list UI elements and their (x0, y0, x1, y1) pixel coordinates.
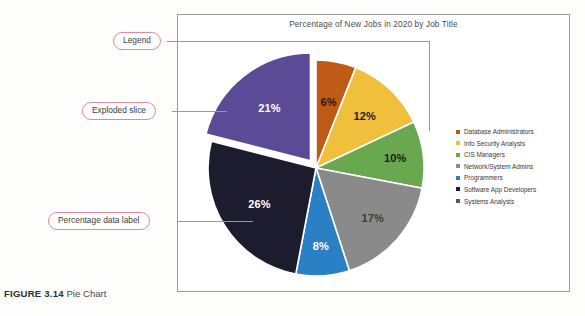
pie-data-label: 17% (361, 212, 384, 224)
legend-item: Software App Developers (456, 185, 568, 194)
legend-item-label: Programmers (464, 173, 503, 182)
callout-percentage-data-label: Percentage data label (48, 212, 150, 230)
pie-data-label: 26% (248, 198, 271, 210)
legend-item-label: Network/System Admins (464, 162, 533, 171)
leader-line-legend-vertical (429, 41, 430, 131)
callout-exploded-slice: Exploded slice (82, 102, 156, 120)
legend-item: Info Security Analysts (456, 139, 568, 148)
legend-item-label: Database Administrators (464, 127, 534, 136)
callout-legend: Legend (113, 32, 161, 50)
pie-chart (196, 48, 436, 288)
legend-swatch-icon (456, 199, 460, 203)
legend-swatch-icon (456, 130, 460, 134)
legend-item: Network/System Admins (456, 162, 568, 171)
pie-data-label: 12% (353, 110, 376, 122)
legend-item: Database Administrators (456, 127, 568, 136)
legend-item: Programmers (456, 173, 568, 182)
legend-item: CIS Managers (456, 150, 568, 159)
legend-item-label: CIS Managers (464, 150, 505, 159)
legend-item-label: Systems Analysts (464, 197, 514, 206)
legend-item-label: Software App Developers (464, 185, 536, 194)
figure-caption-text: Pie Chart (66, 288, 106, 299)
legend-item: Systems Analysts (456, 197, 568, 206)
pie-data-label: 6% (320, 96, 336, 108)
legend-swatch-icon (456, 153, 460, 157)
pie-svg (196, 48, 436, 288)
figure-caption: FIGURE 3.14 Pie Chart (4, 288, 106, 299)
legend-swatch-icon (456, 187, 460, 191)
pie-data-label: 10% (384, 152, 407, 164)
legend-swatch-icon (456, 164, 460, 168)
chart-title: Percentage of New Jobs in 2020 by Job Ti… (177, 20, 570, 29)
figure-caption-number: FIGURE 3.14 (4, 288, 64, 299)
chart-legend: Database AdministratorsInfo Security Ana… (456, 127, 568, 208)
leader-line-exploded-slice (172, 111, 227, 112)
legend-swatch-icon (456, 176, 460, 180)
figure-container: Percentage of New Jobs in 2020 by Job Ti… (0, 0, 585, 316)
leader-line-legend-horizontal (167, 41, 430, 42)
leader-line-data-label (178, 221, 253, 222)
legend-item-label: Info Security Analysts (464, 139, 525, 148)
pie-data-label: 8% (313, 240, 329, 252)
pie-data-label: 21% (258, 102, 281, 114)
legend-swatch-icon (456, 141, 460, 145)
